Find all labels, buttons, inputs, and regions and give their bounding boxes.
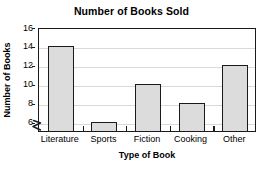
x-axis-title: Type of Book <box>38 150 256 161</box>
x-axis-tick-mark <box>170 126 171 131</box>
x-axis-tick-label: Other <box>212 134 256 145</box>
bar-slot <box>39 29 83 131</box>
bar-slot <box>213 29 256 131</box>
x-axis-tick-mark <box>83 126 84 131</box>
bars-layer <box>39 29 255 131</box>
bar-slot <box>170 29 214 131</box>
bar[interactable] <box>135 84 161 131</box>
x-axis-tick-mark <box>126 126 127 131</box>
bar-slot <box>126 29 170 131</box>
y-axis-tick-mark <box>32 47 35 48</box>
bar[interactable] <box>179 103 205 131</box>
y-axis-tick-mark <box>32 28 35 29</box>
x-axis-tick-label: Fiction <box>125 134 169 145</box>
bar[interactable] <box>91 122 117 131</box>
zigzag-axis-break-icon <box>30 119 44 133</box>
x-axis-tick-labels: LiteratureSportsFictionCookingOther <box>38 134 256 148</box>
y-axis-tick-mark <box>32 85 35 86</box>
bar-slot <box>83 29 127 131</box>
x-axis-tick-label: Literature <box>38 134 82 145</box>
bar-chart: Number of Books Sold Number of Books 161… <box>0 0 263 184</box>
x-axis-tick-label: Cooking <box>169 134 213 145</box>
chart-title: Number of Books Sold <box>0 5 263 18</box>
x-axis-tick-mark <box>213 126 214 131</box>
y-axis-title-container: Number of Books <box>0 24 14 136</box>
y-axis-title: Number of Books <box>2 42 12 117</box>
y-axis-tick-mark <box>32 104 35 105</box>
x-axis-tick-label: Sports <box>82 134 126 145</box>
bar[interactable] <box>222 65 248 131</box>
y-axis-tick-mark <box>32 66 35 67</box>
bar[interactable] <box>48 46 74 131</box>
plot-area <box>38 28 256 132</box>
